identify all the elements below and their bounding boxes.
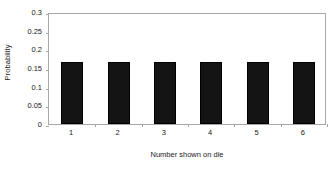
x-axis-tick-mark <box>327 124 328 127</box>
y-axis-tick-label: 0.2 <box>32 46 42 54</box>
x-axis-tick-label: 4 <box>208 128 212 137</box>
x-axis-tick-label: 1 <box>69 128 73 137</box>
y-axis-tick-label: 0.3 <box>32 9 42 17</box>
x-axis-tick-label: 5 <box>254 128 258 137</box>
y-axis-tick-label: 0 <box>38 121 42 129</box>
y-axis-tick-labels: 00.050.10.150.20.250.3 <box>14 13 45 125</box>
y-axis-tick-label: 0.15 <box>27 65 42 73</box>
bar <box>247 62 269 124</box>
x-axis-tick-mark <box>142 124 143 127</box>
x-axis-tick-mark <box>234 124 235 127</box>
x-axis-tick-mark <box>281 124 282 127</box>
y-axis-tick-mark <box>46 126 49 127</box>
y-axis-tick-mark <box>46 51 49 52</box>
y-axis-tick-mark <box>46 70 49 71</box>
x-axis-tick-labels: 123456 <box>48 128 326 140</box>
x-axis-tick-label: 2 <box>115 128 119 137</box>
y-axis-tick-label: 0.05 <box>27 102 42 110</box>
y-axis-title-text: Probability <box>3 44 12 80</box>
bar <box>108 62 130 124</box>
y-axis-tick-mark <box>46 33 49 34</box>
y-axis-tick-label: 0.1 <box>32 84 42 92</box>
y-axis-title: Probability <box>0 0 14 125</box>
bar-chart: Probability 00.050.10.150.20.250.3 12345… <box>0 0 333 174</box>
x-axis-tick-mark <box>188 124 189 127</box>
bar <box>293 62 315 124</box>
y-axis-tick-mark <box>46 89 49 90</box>
x-axis-tick-mark <box>95 124 96 127</box>
x-axis-title: Number shown on die <box>48 150 326 159</box>
x-axis-tick-label: 6 <box>301 128 305 137</box>
y-axis-tick-mark <box>46 107 49 108</box>
bar <box>200 62 222 124</box>
bar <box>61 62 83 124</box>
x-axis-tick-label: 3 <box>162 128 166 137</box>
y-axis-tick-mark <box>46 14 49 15</box>
bar <box>154 62 176 124</box>
y-axis-tick-label: 0.25 <box>27 28 42 36</box>
bars-layer <box>49 14 325 124</box>
plot-area <box>48 13 326 125</box>
